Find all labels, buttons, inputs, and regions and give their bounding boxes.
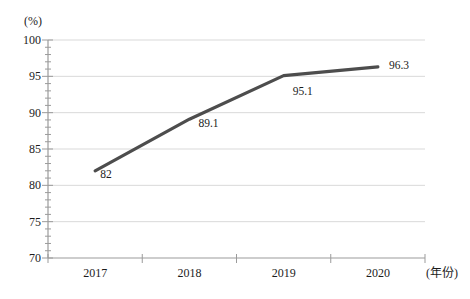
y-tick-label: 70 [29, 251, 41, 265]
y-tick-label: 75 [29, 215, 41, 229]
x-tick-label: 2018 [177, 266, 201, 280]
x-tick-label: 2020 [366, 266, 390, 280]
point-labels: 8289.195.196.3 [100, 59, 409, 180]
y-tick-label: 95 [29, 69, 41, 83]
axes [42, 40, 425, 263]
line-chart: 7075808590951002017201820192020 8289.195… [0, 0, 470, 299]
y-axis-unit-label: (%) [24, 14, 42, 28]
data-point-label: 82 [100, 168, 112, 180]
x-tick-label: 2017 [83, 266, 107, 280]
data-point-label: 96.3 [389, 59, 409, 71]
data-line [95, 67, 378, 171]
y-tick-label: 100 [23, 33, 41, 47]
line-chart-figure: 7075808590951002017201820192020 8289.195… [0, 0, 470, 299]
y-tick-label: 80 [29, 178, 41, 192]
data-point-label: 89.1 [198, 117, 218, 129]
y-tick-label: 85 [29, 142, 41, 156]
data-point-label: 95.1 [293, 85, 313, 97]
x-axis-unit-label: (年份) [426, 266, 458, 280]
x-tick-label: 2019 [272, 266, 296, 280]
y-tick-label: 90 [29, 106, 41, 120]
